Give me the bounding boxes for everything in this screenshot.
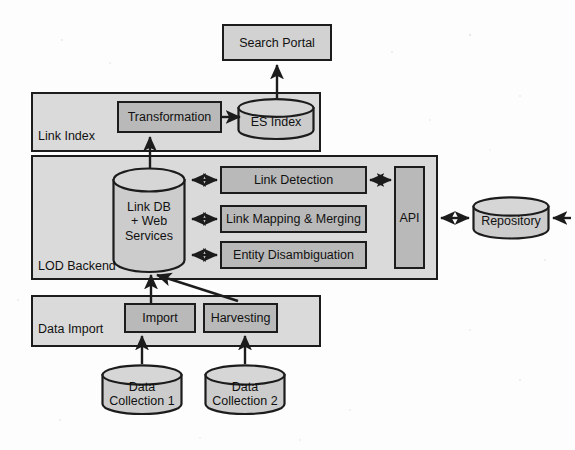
node-es-index[interactable]: ES Index xyxy=(237,98,315,140)
search-portal-label: Search Portal xyxy=(239,36,315,50)
link-mapping-merging-label: Link Mapping & Merging xyxy=(226,212,361,226)
container-link-index-label: Link Index xyxy=(38,129,95,143)
node-data-collection-1[interactable]: Data Collection 1 xyxy=(101,364,183,416)
link-detection-label: Link Detection xyxy=(254,173,333,187)
data-collection-1-shape xyxy=(101,364,183,416)
node-link-detection[interactable]: Link Detection xyxy=(220,166,367,194)
node-transformation[interactable]: Transformation xyxy=(117,101,222,133)
node-search-portal[interactable]: Search Portal xyxy=(222,24,332,61)
es-index-shape xyxy=(237,98,315,140)
repository-shape xyxy=(472,196,550,240)
node-link-db[interactable]: Link DB + Web Services xyxy=(112,167,186,273)
data-collection-2-shape xyxy=(204,364,286,416)
harvesting-label: Harvesting xyxy=(211,311,271,325)
node-import[interactable]: Import xyxy=(124,303,196,333)
node-harvesting[interactable]: Harvesting xyxy=(203,303,278,333)
node-repository[interactable]: Repository xyxy=(472,196,550,240)
link-db-shape xyxy=(112,167,186,273)
container-lod-backend-label: LOD Backend xyxy=(38,259,116,273)
node-entity-disambiguation[interactable]: Entity Disambiguation xyxy=(220,241,367,269)
api-label: API xyxy=(399,211,419,225)
architecture-diagram: Link Index LOD Backend Data Import xyxy=(0,0,575,450)
transformation-label: Transformation xyxy=(128,110,212,124)
entity-disambiguation-label: Entity Disambiguation xyxy=(233,248,354,262)
node-api[interactable]: API xyxy=(394,166,425,269)
node-link-mapping-merging[interactable]: Link Mapping & Merging xyxy=(220,205,367,233)
container-data-import-label: Data Import xyxy=(38,322,103,336)
node-data-collection-2[interactable]: Data Collection 2 xyxy=(204,364,286,416)
import-label: Import xyxy=(142,311,177,325)
